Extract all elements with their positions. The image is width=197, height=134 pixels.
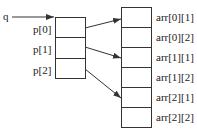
p2-arrow <box>85 69 121 98</box>
arr-0-2-label: arr[0][2] <box>156 31 194 43</box>
q-label: q <box>3 10 9 22</box>
p1-arrow <box>85 47 121 58</box>
arr-2-2-label: arr[2][2] <box>156 111 194 123</box>
arr-1-2-label: arr[1][2] <box>156 71 194 83</box>
p0-label: p[0] <box>33 23 51 35</box>
p1-label: p[1] <box>33 43 51 55</box>
arr-2-1-label: arr[2][1] <box>156 91 194 103</box>
p2-label: p[2] <box>33 64 51 76</box>
element-array-box <box>122 8 152 128</box>
p0-arrow <box>85 19 121 28</box>
pointer-array-box <box>56 18 86 79</box>
arr-0-1-label: arr[0][1] <box>156 11 194 23</box>
arr-1-1-label: arr[1][1] <box>156 51 194 63</box>
